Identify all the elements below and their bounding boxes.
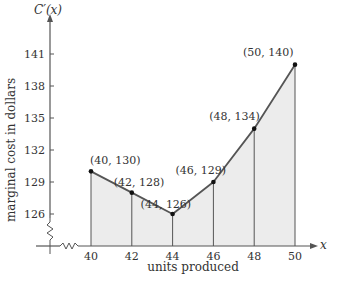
- x-axis-arrow: [310, 243, 318, 249]
- y-axis-variable-label: C′(x): [34, 3, 62, 17]
- point-label-44: (44, 126): [141, 198, 192, 211]
- data-point-46: [211, 180, 216, 185]
- point-label-48: (48, 134): [209, 110, 260, 123]
- point-label-40: (40, 130): [90, 154, 141, 167]
- data-point-50: [293, 62, 298, 67]
- point-label-42: (42, 128): [114, 176, 165, 189]
- x-tick-label-40: 40: [84, 250, 98, 263]
- x-tick-label-42: 42: [125, 250, 139, 263]
- x-tick-label-48: 48: [247, 250, 261, 263]
- x-axis-break: [60, 243, 91, 249]
- y-tick-label-132: 132: [24, 144, 45, 157]
- data-point-44: [170, 212, 175, 217]
- y-tick-label-129: 129: [24, 176, 45, 189]
- y-tick-label-141: 141: [24, 48, 45, 61]
- y-tick-label-138: 138: [24, 80, 45, 93]
- y-tick-label-126: 126: [24, 208, 45, 221]
- x-tick-label-50: 50: [288, 250, 302, 263]
- data-point-42: [130, 190, 135, 195]
- data-point-48: [252, 126, 257, 131]
- x-axis-title: units produced: [147, 260, 239, 274]
- y-axis-break: [47, 218, 53, 254]
- y-tick-label-135: 135: [24, 112, 45, 125]
- point-label-46: (46, 129): [175, 164, 226, 177]
- data-point-40: [89, 169, 94, 174]
- marginal-cost-chart: 126129132135138141404244464850 (40, 130)…: [0, 0, 337, 282]
- y-axis-title: marginal cost in dollars: [4, 78, 18, 222]
- point-label-50: (50, 140): [243, 46, 294, 59]
- x-axis-variable-label: x: [320, 238, 327, 252]
